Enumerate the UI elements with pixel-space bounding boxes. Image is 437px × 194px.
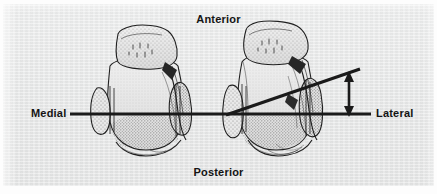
vertical-double-arrow	[344, 71, 354, 117]
figure-screenshot: Anterior Medial Lateral Posterior	[0, 0, 437, 194]
specimen-left	[91, 25, 192, 156]
anatomy-illustration	[0, 0, 437, 194]
